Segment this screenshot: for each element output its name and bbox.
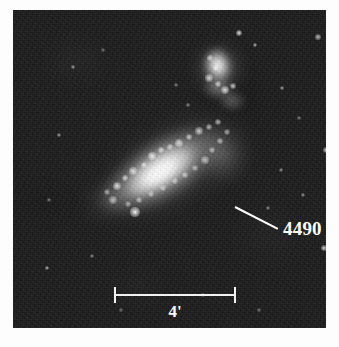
hii-knot [167, 144, 173, 150]
hii-knot [230, 83, 236, 89]
hii-knot [215, 81, 221, 87]
scale-bar-line [114, 294, 236, 296]
hii-knot [148, 191, 154, 197]
hii-knot [129, 167, 136, 174]
galaxy-leader-line [235, 206, 279, 230]
hii-knot [113, 182, 121, 190]
field-star [266, 206, 270, 210]
field-star [90, 254, 94, 258]
ngc-4485-halo [189, 38, 251, 104]
hii-knot [192, 165, 198, 171]
hii-knot [205, 74, 212, 81]
ngc-4485-core [199, 45, 236, 88]
field-star [186, 103, 190, 107]
field-star [47, 198, 51, 202]
field-star [130, 207, 139, 216]
hii-knot [217, 138, 224, 145]
scale-bar-label: 4' [114, 303, 236, 320]
field-star [257, 308, 261, 312]
field-star [301, 193, 305, 197]
hii-knot [104, 189, 110, 195]
field-star [101, 48, 104, 51]
field-star [57, 133, 61, 137]
field-star [174, 83, 178, 87]
hii-knot [160, 185, 166, 191]
hii-knot [224, 129, 230, 135]
hii-knot [182, 172, 189, 179]
ngc-4490-core [119, 137, 202, 206]
field-star [297, 116, 301, 120]
field-star [253, 43, 258, 48]
ngc-4490-tail [68, 163, 153, 239]
hii-knot [207, 55, 213, 61]
scale-bar-tick-right [234, 287, 236, 303]
field-star [45, 266, 50, 271]
hii-knot [175, 139, 183, 147]
field-star [71, 65, 75, 69]
hii-knot [215, 119, 222, 126]
hii-knot [221, 86, 229, 94]
galaxy-label-4490: 4490 [283, 219, 322, 238]
hii-knot [109, 196, 116, 203]
hii-knot [136, 197, 143, 204]
hii-knot [201, 156, 208, 163]
hii-knot [148, 152, 157, 161]
astronomical-image-plate: 4490 4' [13, 10, 326, 328]
hii-knot [125, 201, 131, 207]
field-star [321, 245, 326, 251]
hii-knot [172, 178, 178, 184]
ngc-4490-halo [60, 72, 277, 264]
scale-bar-tick-left [114, 287, 116, 303]
hii-knot [122, 175, 128, 181]
sky-background-mottling [13, 10, 326, 328]
field-star [236, 30, 242, 36]
hii-knot [158, 147, 165, 154]
field-star [280, 86, 284, 90]
ngc-4490-plume [172, 87, 273, 194]
film-grain-overlay [13, 10, 326, 328]
field-star [279, 168, 283, 172]
scale-bar [114, 287, 236, 303]
ngc-4490-body [86, 104, 239, 233]
ngc-4485-knots [199, 76, 249, 116]
hii-knot [195, 127, 202, 134]
field-star [323, 147, 326, 153]
hii-knot [206, 124, 212, 130]
hii-knot [209, 147, 215, 153]
hii-knot [213, 65, 219, 71]
hii-knot [141, 162, 147, 168]
figure-container: 4490 4' [0, 0, 339, 347]
field-star [315, 34, 320, 39]
hii-knot [186, 134, 192, 140]
